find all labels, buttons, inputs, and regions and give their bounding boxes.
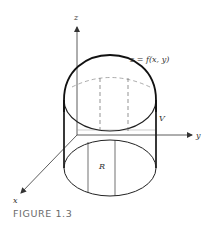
- hidden-arc: [72, 78, 150, 88]
- x-axis: [21, 135, 77, 193]
- y-axis-label: y: [195, 131, 201, 140]
- x-axis-label: x: [13, 196, 18, 205]
- surface-label: z = f(x, y): [129, 55, 169, 64]
- region-r-boundary: [64, 140, 156, 196]
- figure-caption: FIGURE 1.3: [13, 208, 72, 219]
- volume-label: V: [159, 114, 166, 123]
- cylinder-volume-diagram: z y x z = f(x, y) V R: [0, 0, 211, 225]
- z-axis-label: z: [73, 13, 79, 22]
- region-label: R: [98, 162, 105, 171]
- top-rim-front: [64, 100, 156, 131]
